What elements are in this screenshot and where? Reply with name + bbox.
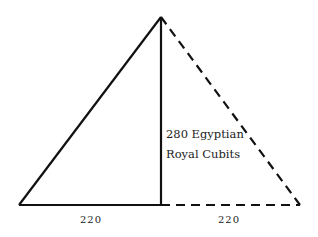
base-right-label: 220 bbox=[218, 214, 240, 225]
height-label: 280 Egyptian Royal Cubits bbox=[166, 124, 244, 164]
base-left-label: 220 bbox=[80, 214, 102, 225]
height-label-line2: Royal Cubits bbox=[166, 144, 244, 164]
dashed-half-triangle bbox=[161, 17, 300, 205]
solid-half-triangle bbox=[19, 17, 161, 205]
pyramid-diagram bbox=[0, 0, 318, 237]
height-label-line1: 280 Egyptian bbox=[166, 124, 244, 144]
